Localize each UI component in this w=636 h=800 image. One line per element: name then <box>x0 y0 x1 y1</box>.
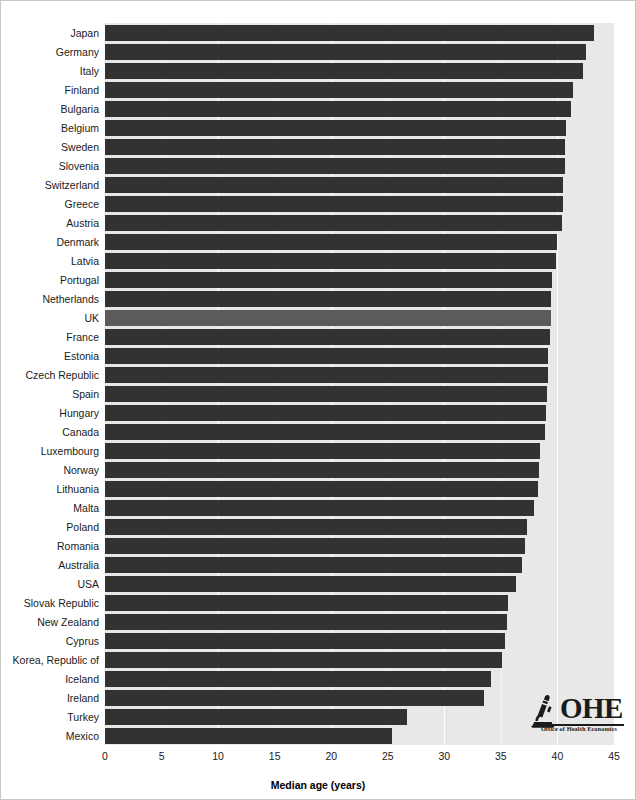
bar-row <box>105 234 614 250</box>
bar-norway <box>105 462 539 478</box>
y-label-austria: Austria <box>1 215 99 231</box>
y-label-luxembourg: Luxembourg <box>1 443 99 459</box>
x-tick-0: 0 <box>102 749 108 763</box>
y-label-italy: Italy <box>1 63 99 79</box>
bar-netherlands <box>105 291 551 307</box>
ohe-logo: OHE Office of Health Economics <box>529 691 625 739</box>
bar-row <box>105 139 614 155</box>
bar-row <box>105 614 614 630</box>
bar-row <box>105 101 614 117</box>
ohe-tagline: Office of Health Economics <box>533 725 625 732</box>
bar-romania <box>105 538 525 554</box>
bar-row <box>105 557 614 573</box>
bar-lithuania <box>105 481 538 497</box>
y-axis-labels: JapanGermanyItalyFinlandBulgariaBelgiumS… <box>1 23 99 745</box>
gridline-45 <box>614 23 615 745</box>
bar-slovenia <box>105 158 565 174</box>
x-tick-25: 25 <box>382 749 394 763</box>
bar-turkey <box>105 709 407 725</box>
bar-row <box>105 120 614 136</box>
y-label-latvia: Latvia <box>1 253 99 269</box>
y-label-turkey: Turkey <box>1 709 99 725</box>
bar-australia <box>105 557 522 573</box>
y-label-japan: Japan <box>1 25 99 41</box>
median-age-bar-chart: JapanGermanyItalyFinlandBulgariaBelgiumS… <box>0 0 636 800</box>
bar-bulgaria <box>105 101 571 117</box>
y-label-romania: Romania <box>1 538 99 554</box>
bar-denmark <box>105 234 557 250</box>
bar-italy <box>105 63 583 79</box>
bar-poland <box>105 519 527 535</box>
plot-area <box>105 23 614 745</box>
bar-row <box>105 633 614 649</box>
bar-row <box>105 272 614 288</box>
y-label-usa: USA <box>1 576 99 592</box>
y-label-sweden: Sweden <box>1 139 99 155</box>
y-label-ireland: Ireland <box>1 690 99 706</box>
bar-hungary <box>105 405 546 421</box>
bar-series <box>105 23 614 745</box>
bar-greece <box>105 196 563 212</box>
bar-austria <box>105 215 562 231</box>
y-label-portugal: Portugal <box>1 272 99 288</box>
y-label-slovak-republic: Slovak Republic <box>1 595 99 611</box>
bar-row <box>105 291 614 307</box>
bar-row <box>105 443 614 459</box>
bar-row <box>105 82 614 98</box>
bar-row <box>105 348 614 364</box>
bar-usa <box>105 576 516 592</box>
bar-row <box>105 310 614 326</box>
y-label-estonia: Estonia <box>1 348 99 364</box>
y-label-switzerland: Switzerland <box>1 177 99 193</box>
y-label-germany: Germany <box>1 44 99 60</box>
y-label-lithuania: Lithuania <box>1 481 99 497</box>
x-axis-title: Median age (years) <box>1 779 635 791</box>
bar-row <box>105 253 614 269</box>
y-label-cyprus: Cyprus <box>1 633 99 649</box>
bar-row <box>105 196 614 212</box>
bar-row <box>105 25 614 41</box>
bar-cyprus <box>105 633 505 649</box>
bar-row <box>105 215 614 231</box>
bar-finland <box>105 82 573 98</box>
bar-row <box>105 519 614 535</box>
bar-slovak-republic <box>105 595 508 611</box>
y-label-finland: Finland <box>1 82 99 98</box>
bar-row <box>105 329 614 345</box>
x-axis-ticks: 051015202530354045 <box>105 749 614 765</box>
y-label-greece: Greece <box>1 196 99 212</box>
y-label-uk: UK <box>1 310 99 326</box>
bar-row <box>105 500 614 516</box>
bar-france <box>105 329 550 345</box>
bar-iceland <box>105 671 491 687</box>
x-tick-45: 45 <box>608 749 620 763</box>
bar-row <box>105 538 614 554</box>
y-label-netherlands: Netherlands <box>1 291 99 307</box>
y-label-norway: Norway <box>1 462 99 478</box>
bar-row <box>105 44 614 60</box>
y-label-denmark: Denmark <box>1 234 99 250</box>
x-tick-5: 5 <box>159 749 165 763</box>
bar-belgium <box>105 120 566 136</box>
y-label-new-zealand: New Zealand <box>1 614 99 630</box>
bar-row <box>105 481 614 497</box>
bar-row <box>105 595 614 611</box>
bar-japan <box>105 25 594 41</box>
bar-row <box>105 63 614 79</box>
bar-uk <box>105 310 551 326</box>
x-tick-40: 40 <box>552 749 564 763</box>
bar-row <box>105 576 614 592</box>
y-label-belgium: Belgium <box>1 120 99 136</box>
bar-czech-republic <box>105 367 548 383</box>
bar-row <box>105 386 614 402</box>
bar-mexico <box>105 728 392 744</box>
bar-ireland <box>105 690 484 706</box>
bar-row <box>105 424 614 440</box>
bar-estonia <box>105 348 548 364</box>
y-label-france: France <box>1 329 99 345</box>
bar-switzerland <box>105 177 563 193</box>
y-label-australia: Australia <box>1 557 99 573</box>
bar-row <box>105 405 614 421</box>
y-label-poland: Poland <box>1 519 99 535</box>
bar-new-zealand <box>105 614 507 630</box>
